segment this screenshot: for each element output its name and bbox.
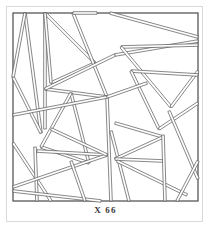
line-art-figure [11, 11, 200, 203]
figure-plate: X 66 [0, 0, 211, 230]
band-40 [73, 12, 97, 15]
geometric-line-art-svg [11, 11, 200, 203]
figure-caption: X 66 [0, 205, 211, 215]
